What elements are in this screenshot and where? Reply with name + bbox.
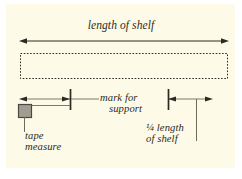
length-of-shelf-label: length of shelf (0, 19, 242, 31)
tape-measure-body (19, 105, 32, 118)
mark-for-support-line-2: support (100, 103, 142, 114)
quarter-length-line-2: of shelf (146, 133, 184, 144)
tape-measure-label: tape measure (25, 130, 61, 153)
quarter-length-line-1: ¼ length (146, 122, 184, 133)
tape-measure-line-2: measure (25, 141, 61, 152)
quarter-length-of-shelf-label: ¼ length of shelf (146, 122, 184, 145)
tape-measure-line-1: tape (25, 130, 44, 141)
shelf-measurement-figure: length of shelf mark for support tape me… (0, 0, 242, 179)
mark-for-support-label: mark for support (100, 92, 142, 115)
mark-for-support-line-1: mark for (100, 92, 138, 103)
